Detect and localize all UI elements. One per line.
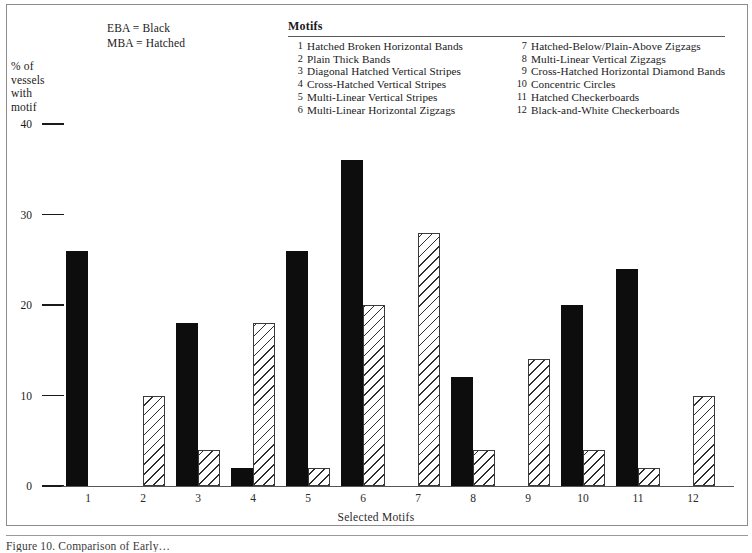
figure-caption: Figure 10. Comparison of Early… <box>6 540 506 552</box>
y-axis-tick-mark <box>42 485 64 487</box>
bar-mba <box>308 468 330 486</box>
y-axis-tick: 10 <box>12 389 64 403</box>
y-axis-tick-mark <box>42 395 64 397</box>
bar-eba <box>176 323 198 486</box>
caption-divider <box>6 535 748 536</box>
bar-eba <box>451 377 473 486</box>
y-axis-tick-mark <box>42 304 64 306</box>
bar-mba <box>528 359 550 486</box>
y-axis-tick-label: 0 <box>12 480 32 492</box>
x-axis-tick-label: 6 <box>341 492 385 504</box>
bar-group <box>506 124 550 486</box>
x-axis-tick-label: 10 <box>561 492 605 504</box>
x-axis-tick-label: 7 <box>396 492 440 504</box>
bar-eba <box>341 160 363 486</box>
y-axis-tick-label: 20 <box>12 299 32 311</box>
y-axis-tick-label: 10 <box>12 390 32 402</box>
bar-mba <box>418 233 440 486</box>
x-axis-tick-label: 1 <box>66 492 110 504</box>
x-axis-tick-label: 5 <box>286 492 330 504</box>
bar-eba <box>561 305 583 486</box>
bar-group <box>616 124 660 486</box>
bar-group <box>286 124 330 486</box>
bar-group <box>396 124 440 486</box>
bar-mba <box>198 450 220 486</box>
y-axis-tick: 20 <box>12 298 64 312</box>
bar-chart-plot: 010203040 123456789101112 Selected Motif… <box>0 0 752 553</box>
bar-group <box>176 124 220 486</box>
x-axis-tick-label: 12 <box>671 492 715 504</box>
x-axis-tick-label: 8 <box>451 492 495 504</box>
x-axis-tick-label: 2 <box>121 492 165 504</box>
bar-group <box>121 124 165 486</box>
y-axis-tick-label: 30 <box>12 209 32 221</box>
bar-eba <box>286 251 308 486</box>
y-axis-tick: 0 <box>12 479 64 493</box>
y-axis-tick-mark <box>42 214 64 216</box>
bar-group <box>231 124 275 486</box>
x-axis-tick-label: 11 <box>616 492 660 504</box>
bar-group <box>451 124 495 486</box>
bar-mba <box>583 450 605 486</box>
bar-mba <box>253 323 275 486</box>
bar-eba <box>231 468 253 486</box>
bar-mba <box>363 305 385 486</box>
x-axis-tick-label: 3 <box>176 492 220 504</box>
bar-eba <box>66 251 88 486</box>
y-axis-tick-label: 40 <box>12 118 32 130</box>
bar-mba <box>638 468 660 486</box>
x-axis-title: Selected Motifs <box>0 511 752 523</box>
bar-group <box>66 124 110 486</box>
y-axis-tick: 30 <box>12 208 64 222</box>
x-axis-tick-label: 4 <box>231 492 275 504</box>
x-axis-tick-label: 9 <box>506 492 550 504</box>
bar-mba <box>143 396 165 487</box>
bar-group <box>561 124 605 486</box>
y-axis-tick-mark <box>42 123 64 125</box>
bar-group <box>341 124 385 486</box>
y-axis-tick: 40 <box>12 117 64 131</box>
bar-mba <box>693 396 715 487</box>
bar-mba <box>473 450 495 486</box>
bar-eba <box>616 269 638 486</box>
bar-group <box>671 124 715 486</box>
x-axis-baseline <box>62 486 734 487</box>
